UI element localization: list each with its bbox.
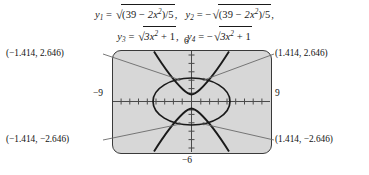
radical-y4: √3x2 + 1 [213,26,252,45]
axis-label-right: 9 [275,88,280,98]
radical-y3: √3x2 + 1 [137,26,176,45]
equation-y1: y1 = √(39 − 2x2)/5, [95,9,177,20]
point-label-top-left: (−1.414, 2.646) [6,48,64,58]
radical-y2: √(39 − 2x2)/5 [212,4,272,23]
graph-canvas [113,51,270,152]
axis-label-left: −9 [93,88,103,98]
equation-y4: y4 = −√3x2 + 1 [187,31,252,42]
radical-y1: √(39 − 2x2)/5 [115,4,175,23]
axis-label-bottom: −6 [182,155,192,165]
point-label-bottom-right: (1.414, −2.646) [275,134,333,144]
equation-line-1: y1 = √(39 − 2x2)/5, y2 = −√(39 − 2x2)/5, [0,4,369,26]
calculator-screen [112,50,272,154]
axis-label-top: 6 [184,36,189,46]
figure-root: y1 = √(39 − 2x2)/5, y2 = −√(39 − 2x2)/5,… [0,0,369,175]
point-label-bottom-left: (−1.414, −2.646) [6,134,69,144]
equation-y3: y3 = √3x2 + 1, [117,31,179,42]
point-label-top-right: (1.414, 2.646) [275,48,328,58]
equation-y2: y2 = −√(39 − 2x2)/5, [186,9,275,20]
